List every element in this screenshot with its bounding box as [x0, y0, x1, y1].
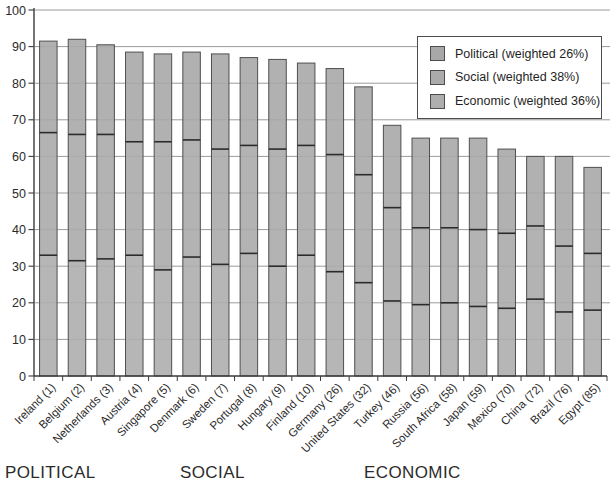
bar-segment-economic	[40, 255, 58, 376]
bar-segment-political	[126, 52, 143, 142]
bar-segment-social	[97, 134, 115, 258]
bar-segment-political	[555, 156, 573, 246]
bar-segment-economic	[441, 303, 459, 376]
y-tick-label: 20	[12, 296, 26, 310]
legend-swatch-social-icon	[430, 70, 445, 85]
bar-segment-economic	[469, 306, 487, 376]
bar-portugal-8-	[240, 58, 258, 376]
bar-belgium-2-	[68, 39, 86, 376]
bar-segment-economic	[154, 270, 172, 376]
bar-brazil-76-	[555, 156, 573, 376]
y-tick-label: 50	[12, 187, 26, 201]
bar-segment-economic	[297, 255, 315, 376]
bar-segment-political	[154, 54, 172, 142]
bar-segment-social	[469, 230, 487, 307]
bar-segment-political	[355, 87, 373, 175]
bar-segment-social	[498, 233, 515, 308]
bar-segment-economic	[584, 310, 602, 376]
bar-segment-political	[97, 45, 115, 135]
y-tick-label: 70	[12, 113, 26, 127]
bar-segment-social	[126, 142, 143, 255]
group-label-political: POLITICAL	[5, 463, 96, 482]
group-label-economic: ECONOMIC	[364, 463, 461, 482]
bar-segment-economic	[326, 272, 344, 376]
bar-denmark-6-	[183, 52, 201, 376]
bar-segment-economic	[498, 308, 515, 376]
bar-segment-social	[527, 226, 545, 299]
bar-segment-social	[584, 253, 602, 310]
bar-segment-economic	[527, 299, 545, 376]
bar-china-72-	[527, 156, 545, 376]
bar-sweden-7-	[211, 54, 229, 376]
y-tick-label: 80	[12, 77, 26, 91]
legend-item-social: Social (weighted 38%)	[430, 70, 597, 85]
bar-segment-political	[498, 149, 515, 233]
y-tick-label: 0	[19, 370, 26, 384]
legend-label-social: Social (weighted 38%)	[455, 70, 579, 84]
bar-segment-social	[183, 140, 201, 257]
bar-segment-social	[154, 142, 172, 270]
legend-item-economic: Economic (weighted 36%)	[430, 94, 597, 109]
y-tick-label: 40	[12, 223, 26, 237]
bar-segment-political	[412, 138, 430, 228]
bar-turkey-46-	[383, 125, 401, 376]
bar-segment-political	[527, 156, 545, 226]
bar-segment-political	[269, 59, 287, 149]
bar-mexico-70-	[498, 149, 515, 376]
y-tick-label: 100	[5, 4, 26, 18]
legend-label-economic: Economic (weighted 36%)	[455, 94, 600, 108]
bar-segment-social	[211, 149, 229, 264]
bar-segment-political	[441, 138, 459, 228]
bar-segment-social	[269, 149, 287, 266]
bar-germany-26-	[326, 69, 344, 376]
chart-legend: Political (weighted 26%) Social (weighte…	[417, 36, 602, 119]
group-label-social: SOCIAL	[180, 463, 245, 482]
legend-swatch-political-icon	[430, 46, 445, 61]
bar-segment-economic	[412, 305, 430, 376]
bar-finland-10-	[297, 63, 315, 376]
bar-netherlands-3-	[97, 45, 115, 376]
bar-segment-economic	[240, 253, 258, 376]
y-tick-label: 30	[12, 260, 26, 274]
bar-egypt-85-	[584, 167, 602, 376]
bar-austria-4-	[126, 52, 143, 376]
bar-segment-social	[355, 175, 373, 283]
bar-segment-social	[555, 246, 573, 312]
legend-swatch-economic-icon	[430, 94, 445, 109]
bar-segment-economic	[269, 266, 287, 376]
y-tick-label: 60	[12, 150, 26, 164]
bar-segment-economic	[383, 301, 401, 376]
bar-segment-social	[412, 228, 430, 305]
bar-segment-social	[441, 228, 459, 303]
bar-ireland-1-	[40, 41, 58, 376]
bar-segment-political	[383, 125, 401, 207]
bar-segment-political	[326, 69, 344, 155]
bar-russia-56-	[412, 138, 430, 376]
bar-segment-social	[297, 145, 315, 255]
bar-segment-economic	[126, 255, 143, 376]
bar-segment-social	[68, 134, 86, 260]
bar-segment-social	[326, 155, 344, 272]
bar-segment-social	[240, 145, 258, 253]
bar-segment-political	[584, 167, 602, 253]
bar-segment-economic	[97, 259, 115, 376]
bar-segment-political	[183, 52, 201, 140]
bar-segment-political	[211, 54, 229, 149]
legend-item-political: Political (weighted 26%)	[430, 46, 597, 61]
bar-segment-social	[383, 208, 401, 301]
bar-south-africa-58-	[441, 138, 459, 376]
bar-segment-economic	[355, 283, 373, 376]
y-tick-label: 10	[12, 333, 26, 347]
legend-label-political: Political (weighted 26%)	[455, 47, 588, 61]
bar-segment-economic	[183, 257, 201, 376]
bar-singapore-5-	[154, 54, 172, 376]
y-tick-label: 90	[12, 40, 26, 54]
bar-segment-political	[240, 58, 258, 146]
bar-united-states-32-	[355, 87, 373, 376]
bar-hungary-9-	[269, 59, 287, 376]
bar-segment-social	[40, 133, 58, 256]
bar-segment-political	[469, 138, 487, 230]
bar-segment-political	[68, 39, 86, 134]
bar-segment-economic	[211, 264, 229, 376]
bar-japan-59-	[469, 138, 487, 376]
